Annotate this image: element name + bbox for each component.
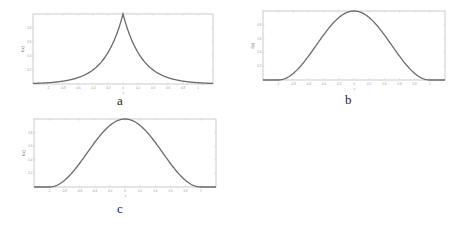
x-tick-label: 0.6 [397,82,402,86]
caption-c: c [117,201,123,217]
y-tick-label: 0.8 [27,26,32,30]
x-axis-label: x [125,194,127,198]
x-tick-label: -1 [48,189,51,193]
x-tick-label: -0.2 [336,82,342,86]
x-tick-label: -0.4 [90,86,96,90]
x-tick-label: -1 [47,86,50,90]
x-tick-label: 1 [200,189,202,193]
y-tick-label: 0.2 [257,64,262,68]
x-tick-label: -0.8 [60,86,66,90]
caption-b: b [345,92,352,108]
chart-b-plot: -1-0.8-0.6-0.4-0.200.20.40.60.810.20.40.… [263,11,445,80]
y-axis-label: f(x) [20,45,25,51]
x-axis-label: x [123,91,125,95]
chart-c-plot: -1-0.8-0.6-0.4-0.200.20.40.60.810.20.40.… [34,119,216,187]
y-axis-label: f(x) [21,149,26,155]
y-tick-label: 0.4 [28,158,33,162]
x-tick-label: 0.6 [168,189,173,193]
plot-frame [34,119,216,187]
x-tick-label: -0.2 [107,189,113,193]
x-axis-label: x [354,87,356,91]
x-tick-label: 1 [197,86,199,90]
chart-a-plot: -1-0.8-0.6-0.4-0.200.20.40.60.810.20.40.… [33,14,213,84]
data-curve [33,14,213,83]
x-tick-label: 0 [124,189,126,193]
x-tick-label: 0.2 [138,189,143,193]
x-tick-label: -0.4 [92,189,98,193]
data-curve [263,11,445,80]
y-tick-label: 0.2 [27,68,32,72]
x-tick-label: -0.2 [105,86,111,90]
x-tick-label: 0.8 [184,189,189,193]
x-tick-label: -0.8 [62,189,68,193]
x-tick-label: 0.4 [151,86,156,90]
y-axis-label: f(x) [250,42,255,48]
x-tick-label: 0.2 [367,82,372,86]
y-tick-label: 0.6 [27,40,32,44]
x-tick-label: 0.4 [382,82,387,86]
x-tick-label: 0.2 [136,86,141,90]
y-tick-label: 0.4 [257,50,262,54]
y-tick-label: 0.8 [28,131,33,135]
x-tick-label: 0.4 [153,189,158,193]
x-tick-label: 1 [429,82,431,86]
x-tick-label: -0.8 [291,82,297,86]
y-tick-label: 0.4 [27,54,32,58]
y-tick-label: 0.6 [257,37,262,41]
plot-frame [33,14,213,84]
chart-panel-a: -1-0.8-0.6-0.4-0.200.20.40.60.810.20.40.… [33,14,213,84]
x-tick-label: 0 [353,82,355,86]
plot-frame [263,11,445,80]
x-tick-label: 0.6 [166,86,171,90]
x-tick-label: -0.6 [306,82,312,86]
y-tick-label: 0.6 [28,144,33,148]
x-tick-label: 0.8 [181,86,186,90]
x-tick-label: 0 [122,86,124,90]
x-tick-label: -0.4 [321,82,327,86]
chart-panel-b: -1-0.8-0.6-0.4-0.200.20.40.60.810.20.40.… [263,11,445,80]
data-curve [34,119,216,187]
y-tick-label: 0.2 [28,171,33,175]
x-tick-label: -0.6 [77,189,83,193]
x-tick-label: -0.6 [75,86,81,90]
x-tick-label: 0.8 [413,82,418,86]
chart-panel-c: -1-0.8-0.6-0.4-0.200.20.40.60.810.20.40.… [34,119,216,187]
x-tick-label: -1 [277,82,280,86]
y-tick-label: 0.8 [257,23,262,27]
caption-a: a [117,93,123,109]
